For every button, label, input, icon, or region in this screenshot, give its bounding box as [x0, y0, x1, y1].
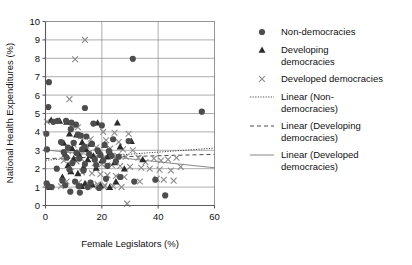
marker-triangle [114, 119, 121, 125]
marker-circle [152, 177, 158, 183]
marker-circle [54, 166, 60, 172]
marker-circle [90, 121, 96, 127]
x-tick-label: 60 [209, 211, 220, 222]
legend-label-5: Linear (Developed [281, 149, 359, 160]
marker-circle [77, 190, 83, 196]
y-tick-label: 6 [35, 90, 40, 101]
legend-item-4[interactable]: Linear (Developingdemocracies) [250, 120, 361, 143]
marker-circle [110, 136, 116, 142]
x-tick-label: 40 [153, 211, 164, 222]
marker-circle [102, 142, 108, 148]
legend-marker-triangle [259, 47, 266, 53]
legend-item-3[interactable]: Linear (Non-democracies) [250, 91, 338, 114]
legend-label-5: democracies) [281, 161, 338, 172]
y-tick-label: 5 [35, 108, 40, 119]
legend-item-2[interactable]: Developed democracies [259, 73, 383, 84]
marker-circle [109, 153, 115, 159]
marker-circle [130, 56, 136, 62]
marker-circle [67, 189, 73, 195]
marker-circle [97, 152, 103, 158]
y-tick-label: 8 [35, 53, 40, 64]
legend-label-1: democracies [281, 56, 335, 67]
legend-item-1[interactable]: Developingdemocracies [259, 44, 336, 67]
legend-label-3: Linear (Non- [281, 91, 334, 102]
legend-label-2: Developed democracies [281, 73, 383, 84]
marker-circle [73, 150, 79, 156]
marker-circle [66, 167, 72, 173]
gridlines [46, 22, 215, 206]
marker-circle [69, 160, 75, 166]
marker-circle [117, 174, 123, 180]
marker-circle [99, 122, 105, 128]
marker-circle [83, 133, 89, 139]
legend: Non-democraciesDevelopingdemocraciesDeve… [250, 26, 383, 172]
marker-circle [76, 183, 82, 189]
x-tick-label: 0 [43, 211, 48, 222]
y-tick-label: 0 [35, 200, 40, 211]
marker-circle [61, 149, 67, 155]
y-tick-label: 7 [35, 71, 40, 82]
marker-circle [46, 79, 52, 85]
legend-label-4: democracies) [281, 132, 338, 143]
scatter-chart: 0123456789100204060 Non-democraciesDevel… [0, 0, 412, 265]
marker-circle [82, 161, 88, 167]
marker-circle [96, 185, 102, 191]
legend-marker-circle [259, 29, 265, 35]
marker-circle [86, 151, 92, 157]
x-axis-title: Female Legislators (%) [81, 238, 179, 249]
marker-circle [64, 155, 70, 161]
marker-circle [85, 184, 91, 190]
marker-circle [131, 178, 137, 184]
marker-circle [100, 157, 106, 163]
y-tick-label: 4 [35, 126, 40, 137]
marker-circle [116, 154, 122, 160]
marker-circle [58, 139, 64, 145]
chart-svg: 0123456789100204060 Non-democraciesDevel… [0, 0, 412, 265]
marker-circle [162, 192, 168, 198]
legend-label-4: Linear (Developing [281, 120, 361, 131]
marker-circle [49, 184, 55, 190]
marker-circle [78, 132, 84, 138]
marker-circle [76, 155, 82, 161]
y-tick-label: 9 [35, 34, 40, 45]
y-tick-label: 2 [35, 163, 40, 174]
legend-label-1: Developing [281, 44, 329, 55]
marker-circle [92, 156, 98, 162]
marker-circle [62, 182, 68, 188]
marker-triangle [117, 143, 124, 149]
marker-circle [103, 176, 109, 182]
y-axis-title: National Health Expenditures (%) [4, 43, 15, 183]
legend-item-5[interactable]: Linear (Developeddemocracies) [250, 149, 359, 172]
marker-circle [63, 118, 69, 124]
marker-circle [44, 146, 50, 152]
marker-circle [125, 138, 131, 144]
y-tick-label: 3 [35, 145, 40, 156]
marker-circle [89, 141, 95, 147]
marker-circle [45, 104, 51, 110]
marker-circle [73, 121, 79, 127]
marker-circle [65, 144, 71, 150]
marker-circle [50, 119, 56, 125]
legend-item-0[interactable]: Non-democracies [259, 26, 356, 37]
y-tick-label: 1 [35, 182, 40, 193]
marker-circle [80, 167, 86, 173]
marker-circle [104, 163, 110, 169]
legend-label-3: democracies) [281, 103, 338, 114]
y-tick-label: 10 [29, 16, 40, 27]
trendline-1 [46, 154, 215, 158]
marker-circle [81, 144, 87, 150]
marker-circle [68, 126, 74, 132]
marker-circle [93, 162, 99, 168]
x-tick-label: 20 [97, 211, 108, 222]
marker-circle [199, 109, 205, 115]
legend-label-0: Non-democracies [281, 26, 356, 37]
marker-circle [82, 105, 88, 111]
data-points [43, 37, 205, 207]
marker-circle [71, 140, 77, 146]
